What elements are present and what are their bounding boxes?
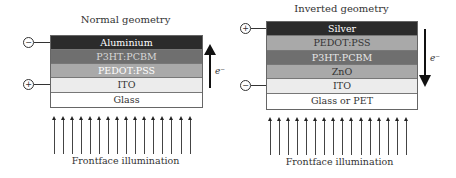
terminal-lead bbox=[34, 84, 50, 85]
electron-flow-down-arrow bbox=[424, 29, 426, 75]
positive-terminal-icon: + bbox=[240, 23, 251, 34]
light-arrow-icon bbox=[108, 120, 109, 154]
light-arrow-icon bbox=[379, 121, 380, 155]
light-arrow-icon bbox=[144, 120, 145, 154]
layer-ito: ITO bbox=[267, 79, 417, 94]
light-arrow-icon bbox=[63, 120, 64, 154]
normal-geometry-title: Normal geometry bbox=[50, 14, 201, 25]
light-arrow-icon bbox=[288, 121, 289, 155]
terminal-lead bbox=[34, 42, 50, 43]
normal-illumination-caption: Frontface illumination bbox=[50, 155, 201, 166]
inverted-geometry-title: Inverted geometry bbox=[266, 3, 417, 14]
terminal-lead bbox=[251, 28, 266, 29]
light-arrow-icon bbox=[90, 120, 91, 154]
light-arrow-icon bbox=[54, 120, 55, 154]
electron-label: e⁻ bbox=[430, 53, 440, 63]
light-arrow-icon bbox=[351, 121, 352, 155]
light-arrow-icon bbox=[181, 120, 182, 154]
light-arrow-icon bbox=[99, 120, 100, 154]
light-arrow-icon bbox=[279, 121, 280, 155]
light-arrow-icon bbox=[397, 121, 398, 155]
light-arrow-icon bbox=[315, 121, 316, 155]
layer-glass-or-pet: Glass or PET bbox=[267, 94, 417, 109]
electron-flow-up-arrow bbox=[209, 54, 211, 88]
layer-p3ht-pcbm: P3HT:PCBM bbox=[267, 51, 417, 65]
light-arrow-icon bbox=[171, 120, 172, 154]
inverted-device-stack: Silver PEDOT:PSS P3HT:PCBM ZnO ITO Glass… bbox=[266, 21, 418, 110]
inverted-illumination-caption: Frontface illumination bbox=[262, 156, 417, 167]
layer-p3ht-pcbm: P3HT:PCBM bbox=[51, 50, 202, 64]
light-arrow-icon bbox=[297, 121, 298, 155]
negative-terminal-icon: − bbox=[240, 80, 251, 91]
arrowhead-down-icon bbox=[419, 75, 431, 87]
arrowhead-up-icon bbox=[204, 44, 216, 55]
light-arrow-icon bbox=[306, 121, 307, 155]
layer-pedot-pss: PEDOT:PSS bbox=[267, 36, 417, 51]
light-arrow-icon bbox=[190, 120, 191, 154]
light-arrow-icon bbox=[126, 120, 127, 154]
light-arrow-icon bbox=[81, 120, 82, 154]
light-arrow-icon bbox=[135, 120, 136, 154]
light-arrow-icon bbox=[342, 121, 343, 155]
light-arrow-icon bbox=[72, 120, 73, 154]
light-arrow-icon bbox=[324, 121, 325, 155]
light-arrow-icon bbox=[388, 121, 389, 155]
layer-pedot-pss: PEDOT:PSS bbox=[51, 64, 202, 78]
electron-label: e⁻ bbox=[215, 66, 225, 76]
light-arrow-icon bbox=[270, 121, 271, 155]
light-arrow-icon bbox=[117, 120, 118, 154]
layer-glass: Glass bbox=[51, 93, 202, 107]
layer-ito: ITO bbox=[51, 78, 202, 93]
layer-zno: ZnO bbox=[267, 65, 417, 79]
terminal-lead bbox=[251, 85, 266, 86]
light-arrow-icon bbox=[406, 121, 407, 155]
negative-terminal-icon: − bbox=[23, 37, 34, 48]
light-arrow-icon bbox=[153, 120, 154, 154]
light-arrow-icon bbox=[162, 120, 163, 154]
layer-silver: Silver bbox=[267, 22, 417, 36]
normal-device-stack: Aluminium P3HT:PCBM PEDOT:PSS ITO Glass bbox=[50, 35, 203, 108]
positive-terminal-icon: + bbox=[23, 79, 34, 90]
light-arrow-icon bbox=[361, 121, 362, 155]
layer-aluminium: Aluminium bbox=[51, 36, 202, 50]
light-arrow-icon bbox=[333, 121, 334, 155]
light-arrow-icon bbox=[370, 121, 371, 155]
